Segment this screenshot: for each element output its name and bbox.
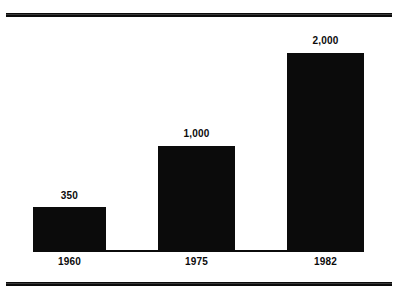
bar-1960 <box>33 207 106 250</box>
bar-category-label-1975: 1975 <box>147 256 247 268</box>
x-axis-baseline <box>33 250 364 252</box>
bar-value-label-1982: 2,000 <box>276 35 376 47</box>
bar-category-label-1982: 1982 <box>276 256 376 268</box>
bar-1982 <box>287 53 364 250</box>
bar-value-label-1975: 1,000 <box>147 128 247 140</box>
bar-1975 <box>158 146 235 250</box>
bar-value-label-1960: 350 <box>20 190 120 202</box>
bar-category-label-1960: 1960 <box>20 256 120 268</box>
chart-page: 350 1960 1,000 1975 2,000 1982 <box>0 0 400 292</box>
bar-chart-plot-area: 350 1960 1,000 1975 2,000 1982 <box>0 0 400 292</box>
bottom-divider-rule <box>6 282 392 286</box>
